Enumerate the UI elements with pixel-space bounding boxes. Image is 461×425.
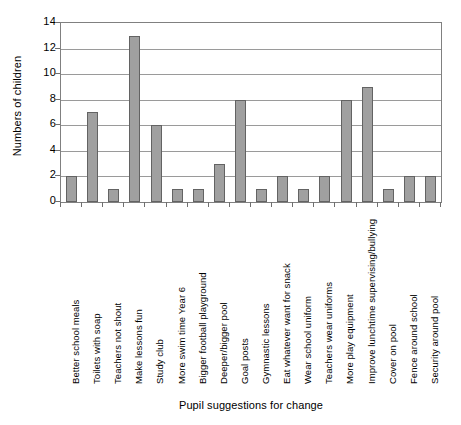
x-category-label-slot: Goal posts	[229, 208, 250, 388]
x-category-label-slot: Deeper/bigger pool	[208, 208, 229, 388]
x-tick-mark	[123, 202, 124, 207]
x-category-label-slot: Cover on pool	[377, 208, 398, 388]
x-axis-tick-marks	[60, 202, 442, 207]
x-tick-mark	[250, 202, 251, 207]
bar	[256, 189, 267, 202]
x-tick-mark	[440, 202, 441, 207]
x-tick-mark	[81, 202, 82, 207]
x-tick-mark	[60, 202, 61, 207]
x-tick-mark	[208, 202, 209, 207]
x-category-label-slot: Toilets with soap	[81, 208, 102, 388]
y-tick-label: 8	[28, 93, 56, 104]
y-tick-label: 12	[28, 42, 56, 53]
bar-chart-figure: Numbers of children 02468101214 Better s…	[0, 0, 461, 425]
x-category-label-slot: More swim time Year 6	[166, 208, 187, 388]
y-axis-tick-labels: 02468101214	[28, 22, 56, 201]
x-category-label-slot: Bigger football playground	[187, 208, 208, 388]
x-tick-mark	[419, 202, 420, 207]
x-tick-mark	[187, 202, 188, 207]
bar	[277, 176, 288, 202]
bar	[341, 100, 352, 202]
x-tick-mark	[229, 202, 230, 207]
x-tick-mark	[398, 202, 399, 207]
x-tick-mark	[356, 202, 357, 207]
y-tick-label: 4	[28, 144, 56, 155]
bar	[108, 189, 119, 202]
x-category-label-slot: Improve lunchtime supervising/bullying	[356, 208, 377, 388]
bar	[193, 189, 204, 202]
x-category-label-slot: Fence around school	[398, 208, 419, 388]
x-tick-mark	[334, 202, 335, 207]
x-category-label-slot: Better school meals	[60, 208, 81, 388]
bars-container	[61, 23, 441, 202]
bar	[66, 176, 77, 202]
x-axis-title: Pupil suggestions for change	[60, 398, 442, 412]
bar	[425, 176, 436, 202]
bar	[214, 164, 225, 202]
x-category-label-slot: More play equipment	[334, 208, 355, 388]
y-tick-label: 10	[28, 67, 56, 78]
x-category-label-slot: Gymnastic lessons	[250, 208, 271, 388]
x-category-label: Security around pool	[424, 296, 445, 384]
x-category-label-slot: Teachers not shout	[102, 208, 123, 388]
x-category-label-slot: Security around pool	[419, 208, 440, 388]
bar	[129, 36, 140, 202]
x-category-label-slot: Teachers wear uniforms	[313, 208, 334, 388]
bar	[172, 189, 183, 202]
x-tick-mark	[166, 202, 167, 207]
x-tick-mark	[102, 202, 103, 207]
x-category-label-slot: Wear school uniform	[292, 208, 313, 388]
x-tick-mark	[144, 202, 145, 207]
bar	[362, 87, 373, 202]
plot-area	[60, 22, 442, 203]
y-tick-label: 6	[28, 118, 56, 129]
x-axis-category-labels: Better school mealsToilets with soapTeac…	[60, 208, 442, 388]
x-category-label-slot: Study club	[144, 208, 165, 388]
y-axis-title: Numbers of children	[6, 0, 28, 212]
bar	[87, 112, 98, 202]
x-tick-mark	[313, 202, 314, 207]
x-category-label-slot: Make lessons fun	[123, 208, 144, 388]
y-tick-label: 2	[28, 169, 56, 180]
y-tick-label: 0	[28, 195, 56, 206]
x-category-label-slot: Eat whatever want for snack	[271, 208, 292, 388]
bar	[383, 189, 394, 202]
x-tick-mark	[271, 202, 272, 207]
bar	[235, 100, 246, 202]
x-tick-mark	[377, 202, 378, 207]
bar	[298, 189, 309, 202]
bar	[319, 176, 330, 202]
bar	[151, 125, 162, 202]
x-tick-mark	[292, 202, 293, 207]
y-tick-label: 14	[28, 16, 56, 27]
bar	[404, 176, 415, 202]
